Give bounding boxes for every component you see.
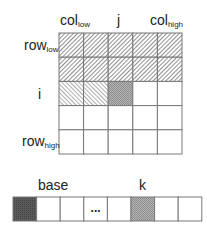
ellipsis-text: ... [91, 201, 101, 215]
matrix-cell-done [59, 33, 84, 57]
array-cell-empty [155, 197, 179, 221]
array-label-0-main: base [38, 177, 68, 193]
row-label-2-main: row [22, 133, 45, 149]
column-label-2-subscript: high [168, 20, 183, 29]
column-label-0-main: col [60, 12, 78, 28]
matrix-cell-partial [59, 81, 84, 105]
array-cell-current [131, 197, 155, 221]
matrix-cell-done [157, 33, 182, 57]
array-label-1-main: k [139, 177, 146, 193]
matrix-cell-empty [157, 81, 182, 105]
row-label-2-subscript: high [45, 141, 60, 150]
column-label-2-main: col [150, 12, 168, 28]
matrix-cell-done [59, 57, 84, 81]
matrix-array-diagram: ... [0, 0, 207, 233]
row-label-1: i [38, 87, 41, 101]
row-label-1-main: i [38, 86, 41, 102]
matrix-cell-done [84, 57, 109, 81]
matrix-cell-done [157, 57, 182, 81]
matrix-cell-empty [133, 130, 158, 154]
column-label-0-subscript: low [78, 20, 90, 29]
matrix-cell-empty [157, 106, 182, 130]
matrix-cell-current [108, 81, 133, 105]
matrix-cell-empty [133, 81, 158, 105]
matrix-cell-empty [157, 130, 182, 154]
linear-array: ... [13, 197, 202, 221]
matrix-cell-empty [133, 106, 158, 130]
array-label-0: base [38, 178, 68, 192]
array-label-1: k [139, 178, 146, 192]
matrix-cell-empty [59, 130, 84, 154]
matrix-cell-partial [84, 81, 109, 105]
matrix-cell-done [133, 57, 158, 81]
matrix-cell-empty [59, 106, 84, 130]
matrix-cell-empty [108, 106, 133, 130]
matrix-cell-empty [108, 130, 133, 154]
array-cell-base [13, 197, 37, 221]
column-label-1: j [117, 13, 120, 27]
matrix-cell-empty [84, 130, 109, 154]
row-label-2: rowhigh [22, 134, 60, 148]
matrix-cell-done [108, 57, 133, 81]
row-label-0-main: row [24, 37, 47, 53]
matrix-cell-done [133, 33, 158, 57]
row-label-0-subscript: low [47, 45, 59, 54]
matrix-grid [59, 33, 182, 154]
column-label-2: colhigh [150, 13, 183, 27]
matrix-cell-done [84, 33, 109, 57]
array-cell-empty [107, 197, 131, 221]
array-cell-empty [60, 197, 84, 221]
column-label-1-main: j [117, 12, 120, 28]
column-label-0: collow [60, 13, 90, 27]
row-label-0: rowlow [24, 38, 59, 52]
matrix-cell-done [108, 33, 133, 57]
array-cell-empty [37, 197, 61, 221]
matrix-cell-empty [84, 106, 109, 130]
array-cell-empty [178, 197, 202, 221]
